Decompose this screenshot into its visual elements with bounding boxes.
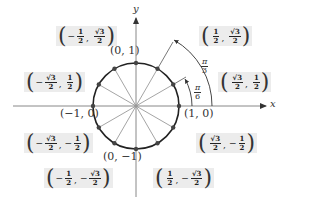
- angle-label-pi-3: π 3: [201, 58, 208, 75]
- ray-pi-3: [158, 42, 174, 69]
- point-label-left: (−1, 0): [60, 107, 99, 120]
- coord-box-30: ( √32 , 12 ): [218, 72, 271, 92]
- y-axis-label: y: [133, 3, 139, 14]
- point-label-right: (1, 0): [184, 107, 214, 120]
- angle-label-pi-6: π 6: [194, 84, 201, 101]
- coord-box-240: ( − 12 , − √32 ): [44, 168, 113, 188]
- coord-box-210: ( − √32 , − 12 ): [24, 133, 93, 153]
- coord-box-300: ( 12 , − √32 ): [153, 168, 214, 188]
- arc-pi-6: [185, 79, 192, 106]
- x-axis-label: x: [270, 98, 276, 109]
- coord-box-150: ( − √32 , 12 ): [24, 72, 85, 92]
- origin-point: [134, 104, 138, 108]
- coord-box-60: ( 12 , √32 ): [199, 26, 252, 46]
- coord-box-330: ( √32 , − 12 ): [196, 133, 257, 153]
- point-label-bottom: (0, −1): [103, 150, 142, 163]
- ray-pi-6: [173, 77, 186, 85]
- coord-box-120: ( − 12 , √32 ): [56, 26, 117, 46]
